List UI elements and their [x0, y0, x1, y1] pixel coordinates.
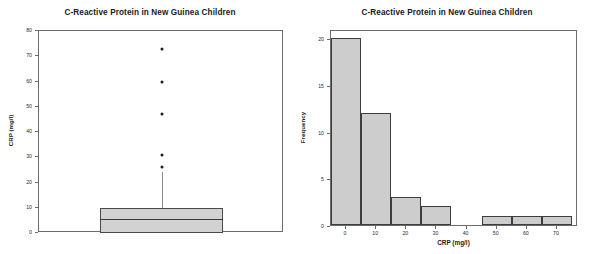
- histogram-x-tick-label: 20: [402, 230, 408, 236]
- boxplot-outlier-point: [160, 166, 163, 169]
- histogram-x-tick-label: 40: [463, 230, 469, 236]
- histogram-x-tick-label: 10: [372, 230, 378, 236]
- histogram-y-tick-label: 15: [304, 83, 324, 89]
- histogram-x-tick-label: 0: [344, 230, 347, 236]
- boxplot-tick-mark: [35, 156, 38, 157]
- boxplot-tick-label: 50: [12, 103, 32, 109]
- histogram-bar: [421, 206, 451, 225]
- histogram-x-tick-label: 50: [493, 230, 499, 236]
- histogram-x-tick-label: 70: [553, 230, 559, 236]
- histogram-bar: [331, 38, 361, 225]
- boxplot-tick-mark: [35, 55, 38, 56]
- histogram-y-tick-mark: [327, 39, 330, 40]
- boxplot-panel: C-Reactive Protein in New Guinea Childre…: [0, 0, 300, 254]
- boxplot-median-line: [100, 219, 223, 220]
- figure-container: C-Reactive Protein in New Guinea Childre…: [0, 0, 594, 254]
- histogram-y-tick-mark: [327, 86, 330, 87]
- boxplot-tick-label: 80: [12, 27, 32, 33]
- histogram-x-tick-mark: [526, 226, 527, 229]
- histogram-bar: [512, 216, 542, 225]
- boxplot-tick-label: 10: [12, 204, 32, 210]
- boxplot-tick-label: 60: [12, 78, 32, 84]
- boxplot-outlier-point: [160, 113, 163, 116]
- histogram-bar: [482, 216, 512, 225]
- boxplot-title: C-Reactive Protein in New Guinea Childre…: [0, 8, 300, 17]
- histogram-title: C-Reactive Protein in New Guinea Childre…: [300, 8, 594, 17]
- boxplot-plot-area: [38, 30, 283, 232]
- histogram-y-tick-mark: [327, 133, 330, 134]
- histogram-x-tick-label: 30: [433, 230, 439, 236]
- boxplot-tick-mark: [35, 81, 38, 82]
- histogram-x-axis-label: CRP (mg/l): [330, 239, 577, 246]
- histogram-x-tick-mark: [466, 226, 467, 229]
- boxplot-box: [100, 208, 223, 233]
- boxplot-tick-mark: [35, 207, 38, 208]
- histogram-y-tick-label: 10: [304, 130, 324, 136]
- histogram-y-tick-label: 0: [304, 223, 324, 229]
- boxplot-tick-mark: [35, 30, 38, 31]
- boxplot-tick-mark: [35, 232, 38, 233]
- boxplot-tick-mark: [35, 182, 38, 183]
- histogram-plot-area: [330, 30, 577, 226]
- boxplot-tick-label: 20: [12, 179, 32, 185]
- histogram-y-tick-mark: [327, 179, 330, 180]
- histogram-x-tick-mark: [435, 226, 436, 229]
- boxplot-tick-mark: [35, 131, 38, 132]
- histogram-bar: [391, 197, 421, 225]
- boxplot-outlier-point: [160, 153, 163, 156]
- histogram-panel: C-Reactive Protein in New Guinea Childre…: [300, 0, 594, 254]
- histogram-x-tick-mark: [345, 226, 346, 229]
- boxplot-tick-mark: [35, 106, 38, 107]
- histogram-x-tick-label: 60: [523, 230, 529, 236]
- histogram-y-tick-mark: [327, 226, 330, 227]
- histogram-x-tick-mark: [405, 226, 406, 229]
- histogram-y-tick-label: 20: [304, 36, 324, 42]
- histogram-bar: [361, 113, 391, 225]
- histogram-x-tick-mark: [556, 226, 557, 229]
- boxplot-whisker: [162, 172, 163, 207]
- boxplot-tick-label: 40: [12, 128, 32, 134]
- boxplot-tick-label: 0: [12, 229, 32, 235]
- boxplot-tick-label: 70: [12, 52, 32, 58]
- histogram-y-axis-label: Frequency: [299, 98, 306, 158]
- histogram-x-tick-mark: [496, 226, 497, 229]
- boxplot-outlier-point: [160, 80, 163, 83]
- histogram-bar: [542, 216, 572, 225]
- boxplot-outlier-point: [160, 47, 163, 50]
- boxplot-tick-label: 30: [12, 153, 32, 159]
- histogram-x-tick-mark: [375, 226, 376, 229]
- histogram-y-tick-label: 5: [304, 176, 324, 182]
